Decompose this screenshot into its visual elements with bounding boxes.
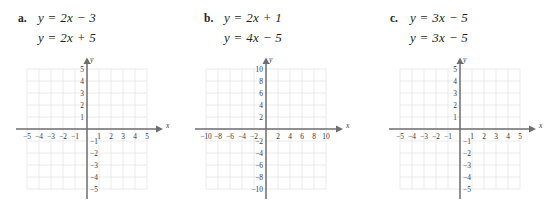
y-tick-label: 1 [453, 113, 457, 122]
equation-text: y = 2x + 5 [38, 30, 96, 46]
x-tick-label: −1 [71, 132, 79, 141]
y-tick-label: 2 [80, 101, 84, 110]
y-tick-label: −4 [255, 149, 263, 158]
y-tick-label: 3 [80, 89, 84, 98]
y-tick-label: 3 [453, 89, 457, 98]
y-tick-label: 2 [259, 113, 263, 122]
y-tick-label: −10 [251, 185, 263, 194]
equation-row: y = 4x − 5 [204, 30, 372, 50]
x-tick-label: 3 [494, 132, 498, 141]
equation-text: y = 4x − 5 [224, 30, 282, 46]
y-tick-label: 2 [453, 101, 457, 110]
x-tick-label: 10 [322, 132, 330, 141]
x-tick-label: −4 [408, 132, 416, 141]
x-tick-label: −3 [47, 132, 55, 141]
x-axis-label: x [345, 121, 350, 130]
coordinate-grid-b: x y −10 −8 −6 −4 −2 2 4 6 8 10 10 [186, 56, 372, 205]
exercise-figure: a. y = 2x − 3 y = 2x + 5 [0, 0, 558, 205]
x-tick-label: 6 [300, 132, 304, 141]
equation-text: y = 3x − 5 [410, 30, 468, 46]
y-tick-label: −2 [255, 137, 263, 146]
y-tick-label: −4 [90, 173, 98, 182]
exercise-panel-a: a. y = 2x − 3 y = 2x + 5 [0, 0, 186, 205]
exercise-panel-c: c. y = 3x − 5 y = 3x − 5 [372, 0, 558, 205]
x-tick-labels: −5 −4 −3 −2 −1 1 2 3 4 5 [23, 132, 149, 141]
y-tick-label: −8 [255, 173, 263, 182]
x-axis-arrowhead [156, 126, 163, 133]
equation-row: a. y = 2x − 3 [18, 10, 186, 30]
y-axis-label: y [462, 56, 467, 64]
y-tick-label: 8 [259, 77, 263, 86]
x-tick-label: −3 [420, 132, 428, 141]
y-axis-label: y [268, 56, 273, 64]
y-tick-label: −4 [463, 173, 471, 182]
y-tick-label: −6 [255, 161, 263, 170]
x-tick-label: −5 [23, 132, 31, 141]
y-tick-label: 5 [453, 65, 457, 74]
x-tick-label: −4 [35, 132, 43, 141]
x-tick-label: −4 [238, 132, 246, 141]
y-tick-label: −3 [463, 161, 471, 170]
coordinate-plane-svg: x y −10 −8 −6 −4 −2 2 4 6 8 10 10 [186, 56, 372, 205]
y-tick-label: −5 [90, 185, 98, 194]
equation-text: y = 3x − 5 [410, 10, 468, 26]
y-tick-label: −3 [90, 161, 98, 170]
y-tick-label: 4 [259, 101, 263, 110]
equation-text: y = 2x + 1 [224, 10, 282, 26]
equation-block-b: b. y = 2x + 1 y = 4x − 5 [204, 10, 372, 50]
x-tick-label: −6 [226, 132, 234, 141]
coordinate-grid-c: x y −5 −4 −3 −2 −1 1 2 3 4 5 5 4 [372, 56, 558, 205]
equation-row: c. y = 3x − 5 [390, 10, 558, 30]
coordinate-plane-svg: x y −5 −4 −3 −2 −1 1 2 3 4 5 5 4 [372, 56, 558, 205]
y-tick-label: 4 [453, 77, 457, 86]
y-tick-label: 10 [256, 65, 264, 74]
x-tick-label: −8 [214, 132, 222, 141]
x-tick-label: 5 [518, 132, 522, 141]
x-tick-label: 2 [109, 132, 113, 141]
y-tick-label: 1 [80, 113, 84, 122]
exercise-letter-a: a. [18, 12, 38, 24]
x-tick-label: −10 [200, 132, 212, 141]
coordinate-grid-a: x y −5 −4 −3 −2 −1 1 2 3 4 5 5 4 [0, 56, 186, 205]
y-tick-label: 5 [80, 65, 84, 74]
x-tick-label: 2 [276, 132, 280, 141]
x-tick-labels: −10 −8 −6 −4 −2 2 4 6 8 10 [200, 132, 330, 141]
y-tick-label: −2 [90, 149, 98, 158]
x-tick-label: 5 [145, 132, 149, 141]
equation-text: y = 2x − 3 [38, 10, 96, 26]
exercise-letter-b: b. [204, 12, 224, 24]
coordinate-plane-svg: x y −5 −4 −3 −2 −1 1 2 3 4 5 5 4 [0, 56, 186, 205]
x-tick-label: 8 [312, 132, 316, 141]
x-tick-label: −1 [444, 132, 452, 141]
x-axis-label: x [538, 121, 543, 130]
y-tick-label: 4 [80, 77, 84, 86]
y-tick-label: −1 [90, 137, 98, 146]
x-tick-label: 2 [482, 132, 486, 141]
x-tick-label: 4 [506, 132, 510, 141]
x-tick-labels: −5 −4 −3 −2 −1 1 2 3 4 5 [396, 132, 522, 141]
equation-block-c: c. y = 3x − 5 y = 3x − 5 [390, 10, 558, 50]
y-axis-label: y [89, 56, 94, 64]
x-tick-label: −2 [432, 132, 440, 141]
y-tick-label: 6 [259, 89, 263, 98]
x-tick-label: 4 [288, 132, 292, 141]
x-axis-arrowhead [336, 126, 343, 133]
x-axis-label: x [165, 121, 170, 130]
x-tick-label: 4 [133, 132, 137, 141]
equation-row: y = 3x − 5 [390, 30, 558, 50]
exercise-panel-b: b. y = 2x + 1 y = 4x − 5 [186, 0, 372, 205]
exercise-letter-c: c. [390, 12, 410, 24]
x-axis-arrowhead [529, 126, 536, 133]
x-tick-label: 3 [121, 132, 125, 141]
y-tick-label: −1 [463, 137, 471, 146]
x-tick-label: −2 [59, 132, 67, 141]
axes [195, 58, 343, 200]
equation-row: y = 2x + 5 [18, 30, 186, 50]
y-tick-label: −5 [463, 185, 471, 194]
equation-row: b. y = 2x + 1 [204, 10, 372, 30]
x-tick-label: −5 [396, 132, 404, 141]
equation-block-a: a. y = 2x − 3 y = 2x + 5 [18, 10, 186, 50]
y-tick-label: −2 [463, 149, 471, 158]
